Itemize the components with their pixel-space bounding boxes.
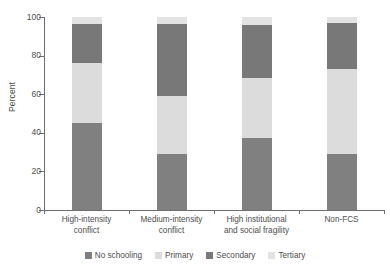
bar-segment[interactable]	[72, 17, 102, 24]
legend-label: Tertiary	[278, 251, 305, 260]
x-tick-mark	[129, 210, 130, 214]
bar-segment[interactable]	[242, 25, 272, 78]
legend-item-2[interactable]: Primary	[155, 251, 193, 260]
legend-label: Primary	[165, 251, 193, 260]
x-category-label: Non-FCS	[299, 215, 384, 226]
x-category-label-line: conflict	[129, 226, 214, 237]
y-tick-label: 20	[32, 166, 41, 176]
x-category-label: Medium-intensityconflict	[129, 215, 214, 236]
bar-segment[interactable]	[327, 154, 357, 210]
bar-segment[interactable]	[72, 24, 102, 64]
bar-4[interactable]	[327, 17, 357, 210]
bar-2[interactable]	[157, 17, 187, 210]
x-category-label-line: High institutional	[214, 215, 299, 226]
y-tick-label: 0	[36, 205, 41, 215]
legend-swatch-icon	[85, 252, 92, 259]
x-tick-mark	[214, 210, 215, 214]
chart-title	[0, 0, 390, 1]
stacked-bar-chart: Percent 020406080100 High-intensityconfl…	[0, 0, 390, 274]
bar-segment[interactable]	[242, 17, 272, 25]
bar-3[interactable]	[242, 17, 272, 210]
bar-segment[interactable]	[157, 24, 187, 96]
bar-segment[interactable]	[327, 69, 357, 154]
legend-item-1[interactable]: No schooling	[85, 251, 142, 260]
y-tick-label: 80	[32, 50, 41, 60]
legend-swatch-icon	[206, 252, 213, 259]
x-category-label-line: Medium-intensity	[129, 215, 214, 226]
y-axis-title: Percent	[7, 67, 17, 127]
legend-swatch-icon	[155, 252, 162, 259]
x-tick-mark	[44, 210, 45, 214]
plot-area: 020406080100	[44, 17, 384, 210]
y-tick-label: 60	[32, 89, 41, 99]
legend-label: Secondary	[216, 251, 255, 260]
bar-segment[interactable]	[327, 23, 357, 69]
bar-segment[interactable]	[72, 63, 102, 123]
x-category-label-line: conflict	[44, 226, 129, 237]
y-tick-label: 40	[32, 127, 41, 137]
x-tick-mark	[299, 210, 300, 214]
legend-item-3[interactable]: Secondary	[206, 251, 255, 260]
x-category-label-line: High-intensity	[44, 215, 129, 226]
bar-segment[interactable]	[157, 154, 187, 210]
bar-segment[interactable]	[157, 17, 187, 24]
legend-swatch-icon	[268, 252, 275, 259]
x-category-label: High-intensityconflict	[44, 215, 129, 236]
y-tick-label: 100	[27, 12, 41, 22]
x-category-label-line: and social fragility	[214, 226, 299, 237]
x-tick-mark	[384, 210, 385, 214]
legend-item-4[interactable]: Tertiary	[268, 251, 305, 260]
legend-label: No schooling	[95, 251, 142, 260]
chart-legend: No schoolingPrimarySecondaryTertiary	[0, 251, 390, 260]
bar-segment[interactable]	[242, 78, 272, 138]
bar-segment[interactable]	[242, 138, 272, 210]
x-category-label-line: Non-FCS	[299, 215, 384, 226]
y-axis-line	[44, 17, 45, 210]
x-axis-category-labels: High-intensityconflictMedium-intensityco…	[44, 215, 384, 245]
bar-segment[interactable]	[72, 123, 102, 210]
x-category-label: High institutionaland social fragility	[214, 215, 299, 236]
bar-1[interactable]	[72, 17, 102, 210]
bar-segment[interactable]	[157, 96, 187, 154]
